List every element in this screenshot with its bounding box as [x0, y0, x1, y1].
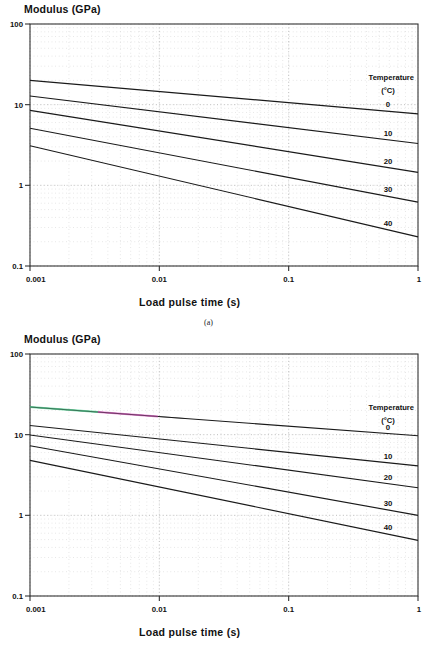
- y-tick-label: 10: [14, 101, 23, 110]
- x-tick-label: 0.001: [26, 605, 46, 614]
- curve-label-10: 10: [384, 129, 393, 138]
- curve-label-20: 20: [384, 157, 393, 166]
- y-tick-label: 100: [10, 350, 24, 359]
- figure-caption-a: (a): [204, 318, 213, 327]
- x-tick-label: 0.1: [283, 275, 295, 284]
- x-axis-title-b: Load pulse time (s): [139, 626, 240, 638]
- curve-label-40: 40: [384, 523, 393, 532]
- figure-a: Modulus (GPa) 1001010.10.0010.010.11Temp…: [0, 0, 434, 330]
- curve-label-20: 20: [384, 473, 393, 482]
- series-line-0: [30, 80, 418, 113]
- x-tick-label: 1: [417, 605, 422, 614]
- figure-b: Modulus (GPa) 1001010.10.0010.010.11Temp…: [0, 330, 434, 648]
- x-tick-label: 0.01: [152, 605, 168, 614]
- y-tick-label: 0.1: [12, 262, 24, 271]
- x-axis-title-a: Load pulse time (s): [139, 296, 240, 308]
- curve-label-40: 40: [384, 219, 393, 228]
- x-tick-label: 0.001: [26, 275, 46, 284]
- curve-label-30: 30: [384, 185, 393, 194]
- curve-label-0: 0: [386, 423, 391, 432]
- x-tick-label: 0.01: [152, 275, 168, 284]
- y-tick-label: 1: [19, 511, 24, 520]
- legend-title-line1: Temperature: [369, 403, 414, 412]
- y-tick-label: 10: [14, 431, 23, 440]
- curve-label-0: 0: [386, 100, 391, 109]
- y-tick-label: 1: [19, 181, 24, 190]
- x-tick-label: 1: [417, 275, 422, 284]
- series-line-30: [30, 446, 418, 516]
- plot-area-b: 1001010.10.0010.010.11Temperature(°C)010…: [0, 330, 434, 630]
- curve-label-30: 30: [384, 499, 393, 508]
- series-line-40: [30, 460, 418, 540]
- curve-label-10: 10: [384, 452, 393, 461]
- legend-title-line1: Temperature: [369, 73, 414, 82]
- series-line-20: [30, 435, 418, 488]
- legend-title-line2: (°C): [381, 86, 395, 95]
- x-tick-label: 0.1: [283, 605, 295, 614]
- y-tick-label: 100: [10, 20, 24, 29]
- y-tick-label: 0.1: [12, 592, 24, 601]
- plot-area-a: 1001010.10.0010.010.11Temperature(°C)010…: [0, 0, 434, 300]
